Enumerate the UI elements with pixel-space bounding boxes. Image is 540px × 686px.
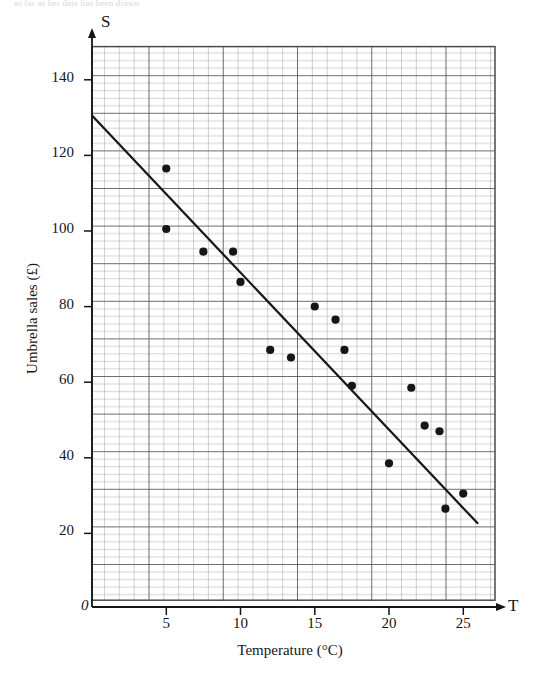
data-point: [287, 353, 295, 361]
x-tick-label: 10: [221, 615, 261, 632]
y-tick-label: 140: [28, 69, 74, 86]
y-tick-label: 120: [28, 144, 74, 161]
data-point: [407, 384, 415, 392]
data-point: [199, 248, 207, 256]
data-point: [266, 346, 274, 354]
origin-label: 0: [81, 597, 89, 614]
data-point: [340, 346, 348, 354]
data-point: [162, 164, 170, 172]
data-point: [441, 505, 449, 513]
data-point: [421, 421, 429, 429]
data-point: [435, 427, 443, 435]
y-axis-title: Umbrella sales (£): [24, 224, 41, 414]
x-tick-label: 25: [443, 615, 483, 632]
scatter-graph-figure: as far as her data has been drawn: [0, 0, 540, 686]
y-axis-letter: S: [101, 12, 110, 32]
data-point: [162, 225, 170, 233]
x-tick-label: 5: [146, 615, 186, 632]
data-point: [229, 248, 237, 256]
y-axis-ticks: [84, 80, 92, 534]
data-point: [331, 316, 339, 324]
x-axis-title: Temperature (°C): [170, 642, 410, 659]
data-point: [459, 490, 467, 498]
plot-canvas: [0, 0, 540, 686]
x-axis-ticks: [166, 607, 463, 615]
y-tick-label: 40: [28, 447, 74, 464]
x-tick-label: 15: [295, 615, 335, 632]
y-tick-label: 20: [28, 522, 74, 539]
x-axis-letter: T: [508, 596, 518, 616]
data-point: [311, 302, 319, 310]
data-point: [385, 459, 393, 467]
data-point: [348, 382, 356, 390]
data-point: [236, 278, 244, 286]
grid-paper: [92, 47, 495, 601]
x-tick-label: 20: [369, 615, 409, 632]
